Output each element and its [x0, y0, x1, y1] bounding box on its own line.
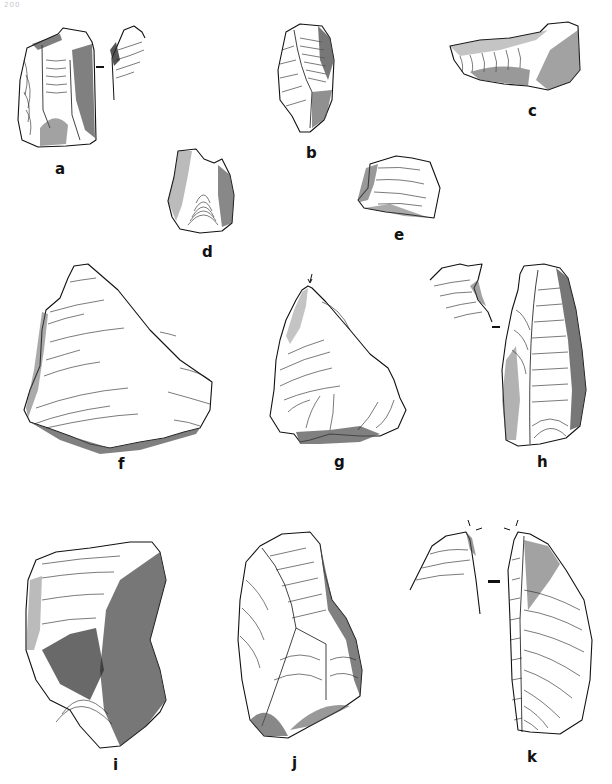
figure-label-c: c	[528, 104, 537, 119]
figure-label-b: b	[306, 146, 317, 161]
figure-label-i: i	[113, 758, 118, 773]
artifact-h: h	[420, 250, 612, 480]
figure-label-k: k	[527, 750, 537, 765]
artifact-a: a	[0, 20, 180, 170]
figure-label-j: j	[292, 756, 297, 771]
artifact-k: k	[400, 500, 612, 784]
figure-label-a: a	[55, 162, 65, 177]
artifact-j: j	[210, 500, 390, 784]
figure-label-g: g	[334, 455, 345, 470]
artifact-f: f	[0, 250, 250, 480]
figure-label-h: h	[537, 455, 548, 470]
artifact-d: d	[160, 145, 250, 265]
figure-label-e: e	[394, 228, 404, 243]
artifact-i: i	[0, 500, 200, 784]
arrow-marker-icon	[516, 520, 518, 526]
artifact-j-drawing	[210, 500, 390, 784]
artifact-g-drawing	[260, 250, 440, 480]
artifact-g: g	[260, 250, 440, 480]
artifact-h-drawing	[420, 250, 612, 480]
artifact-a-drawing	[0, 20, 180, 170]
artifact-c-drawing	[440, 10, 612, 140]
artifact-i-drawing	[0, 500, 200, 784]
page-number: 200	[4, 1, 20, 9]
arrow-marker-icon	[468, 520, 470, 526]
artifact-k-drawing	[400, 500, 612, 784]
artifact-c: c	[440, 10, 612, 140]
artifact-e: e	[350, 148, 450, 248]
figure-label-f: f	[118, 457, 125, 472]
artifact-f-drawing	[0, 250, 250, 480]
artifact-b: b	[270, 20, 350, 170]
